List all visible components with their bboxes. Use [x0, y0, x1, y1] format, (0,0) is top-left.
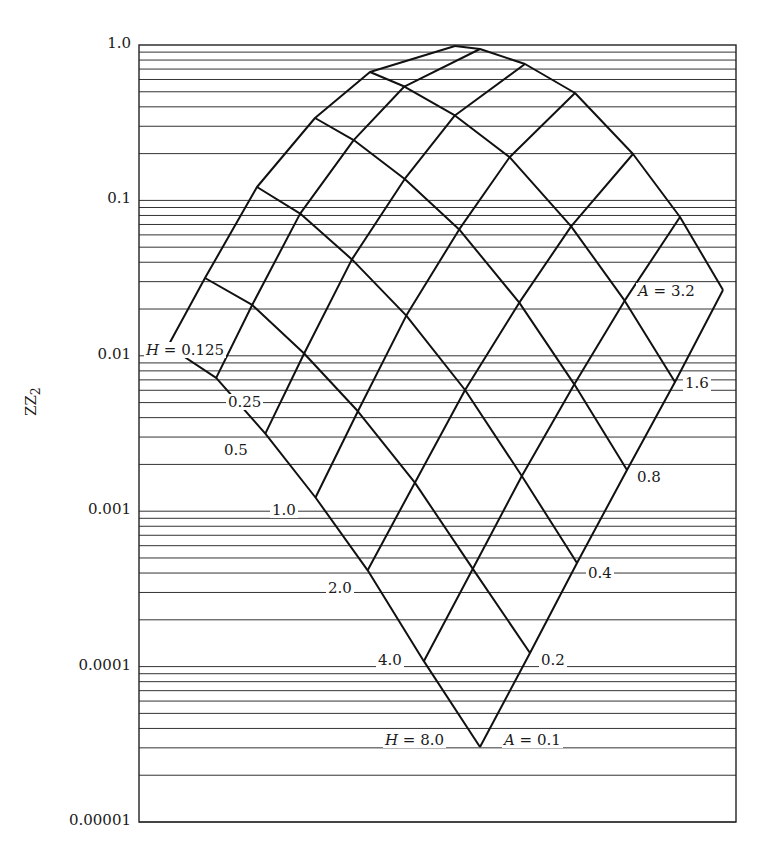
label-h-05: 0.5 — [222, 442, 250, 458]
label-a-01: A = 0.1 — [502, 732, 563, 748]
constant-h-curve — [368, 154, 633, 570]
constant-h-curve — [265, 64, 525, 434]
constant-h-curve — [216, 49, 480, 378]
y-tick-label: 0.0001 — [79, 656, 132, 674]
y-tick-label: 0.1 — [107, 189, 131, 207]
constant-a-curve — [205, 278, 530, 653]
label-h-025: 0.25 — [226, 394, 263, 410]
log-gridlines — [139, 52, 736, 822]
y-axis-label: ZZ2 — [22, 387, 43, 416]
constant-a-curve — [370, 72, 675, 382]
label-a-04: 0.4 — [586, 565, 614, 581]
label-a-08: 0.8 — [635, 469, 663, 485]
y-tick-label: 0.00001 — [69, 811, 131, 829]
constant-a-curve — [168, 346, 480, 747]
y-tick-label: 0.001 — [88, 500, 131, 518]
label-h-10: 1.0 — [270, 502, 298, 518]
label-h-20: 2.0 — [326, 580, 354, 596]
label-a-16: 1.6 — [683, 375, 711, 391]
nomogram-chart — [0, 0, 765, 851]
constant-a-curve — [455, 46, 723, 290]
label-a-02: 0.2 — [539, 652, 567, 668]
y-tick-label: 1.0 — [107, 34, 131, 52]
label-h-0125: H = 0.125 — [144, 342, 226, 358]
constant-a-curve — [257, 187, 577, 563]
label-h-80: H = 8.0 — [383, 732, 446, 748]
label-h-40: 4.0 — [376, 652, 404, 668]
label-a-32: A = 3.2 — [636, 283, 697, 299]
y-tick-label: 0.01 — [98, 345, 131, 363]
